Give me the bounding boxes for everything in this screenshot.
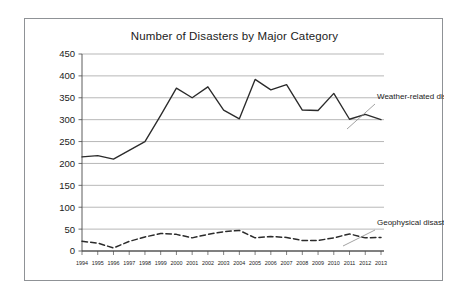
x-tick-label: 2002 bbox=[202, 260, 214, 266]
x-axis-ticks bbox=[82, 251, 381, 255]
y-tick-label: 200 bbox=[59, 158, 75, 169]
x-tick-label: 2007 bbox=[281, 260, 293, 266]
series-line-geophysical bbox=[82, 230, 381, 248]
x-tick-label: 2009 bbox=[312, 260, 324, 266]
gridlines-group bbox=[82, 54, 384, 251]
x-axis-tick-labels: 1994199519961997199819992000200120022003… bbox=[76, 260, 387, 266]
x-tick-label: 1995 bbox=[92, 260, 104, 266]
annotation-group: Weather-related disastersGeophysical dis… bbox=[343, 92, 444, 246]
x-tick-label: 1996 bbox=[107, 260, 119, 266]
y-tick-label: 50 bbox=[64, 224, 75, 235]
x-tick-label: 2008 bbox=[296, 260, 308, 266]
x-tick-label: 2010 bbox=[328, 260, 340, 266]
x-tick-label: 1997 bbox=[123, 260, 135, 266]
x-tick-label: 2006 bbox=[265, 260, 277, 266]
y-tick-label: 150 bbox=[59, 180, 75, 191]
y-axis-tick-labels: 050100150200250300350400450 bbox=[59, 48, 75, 256]
geophysical-annotation-label: Geophysical disasters bbox=[377, 218, 444, 227]
x-tick-label: 2001 bbox=[186, 260, 198, 266]
chart-plot-area: 050100150200250300350400450 199419951996… bbox=[25, 19, 444, 282]
y-tick-label: 450 bbox=[59, 48, 75, 59]
x-tick-label: 2003 bbox=[218, 260, 230, 266]
x-tick-label: 1999 bbox=[155, 260, 167, 266]
x-tick-label: 2004 bbox=[233, 260, 245, 266]
y-tick-label: 400 bbox=[59, 70, 75, 81]
figure-frame: Number of Disasters by Major Category 05… bbox=[24, 18, 443, 281]
x-tick-label: 2013 bbox=[375, 260, 387, 266]
y-tick-label: 100 bbox=[59, 202, 75, 213]
series-line-weather-related bbox=[82, 79, 381, 159]
y-tick-label: 0 bbox=[70, 245, 75, 256]
x-tick-label: 2011 bbox=[344, 260, 356, 266]
y-axis-ticks bbox=[79, 54, 83, 251]
y-tick-label: 250 bbox=[59, 136, 75, 147]
x-tick-label: 1998 bbox=[139, 260, 151, 266]
y-tick-label: 300 bbox=[59, 114, 75, 125]
weather-annotation-label: Weather-related disasters bbox=[377, 92, 444, 101]
x-tick-label: 2005 bbox=[249, 260, 261, 266]
x-tick-label: 1994 bbox=[76, 260, 88, 266]
x-tick-label: 2012 bbox=[359, 260, 371, 266]
y-tick-label: 350 bbox=[59, 92, 75, 103]
x-tick-label: 2000 bbox=[170, 260, 182, 266]
